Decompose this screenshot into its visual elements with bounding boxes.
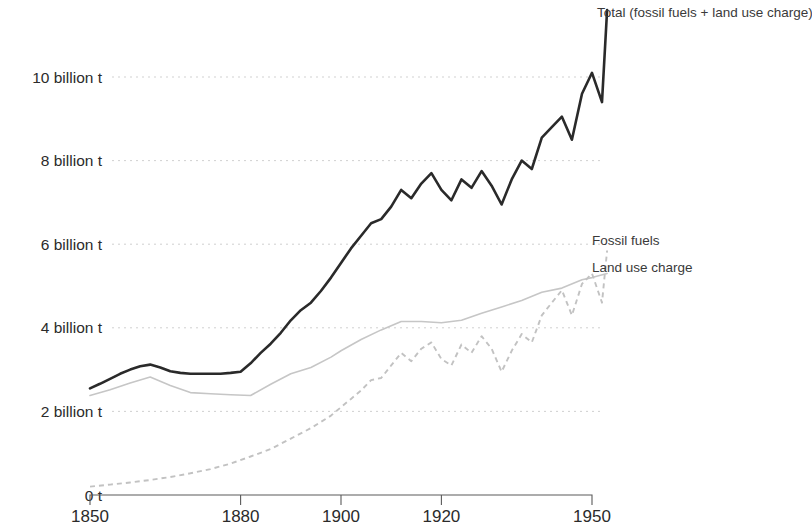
series-line-land-use-charge: [90, 274, 607, 396]
data-series-group: [90, 10, 607, 487]
y-axis-tick-label: 6 billion t: [41, 236, 103, 253]
series-label-land-use-charge: Land use charge: [592, 260, 693, 275]
x-axis-tick-label: 1950: [573, 507, 611, 526]
line-chart: 10 billion t8 billion t6 billion t4 bill…: [0, 0, 812, 526]
series-inline-labels: Total (fossil fuels + land use charge)Fo…: [592, 5, 812, 275]
y-axis-tick-label: 2 billion t: [41, 403, 103, 420]
y-axis-tick-label: 8 billion t: [41, 152, 103, 169]
y-axis-tick-labels: 10 billion t8 billion t6 billion t4 bill…: [32, 69, 102, 504]
series-line-fossil-fuels: [90, 251, 607, 487]
x-axis-tick-label: 1850: [71, 507, 109, 526]
x-axis-tick-label: 1920: [422, 507, 460, 526]
series-label-fossil-fuels: Fossil fuels: [592, 233, 660, 248]
y-axis-tick-label: 10 billion t: [32, 69, 102, 86]
chart-container: 10 billion t8 billion t6 billion t4 bill…: [0, 0, 812, 526]
x-axis-tick-label: 1880: [222, 507, 260, 526]
series-line-total: [90, 10, 607, 388]
x-axis-tick-label: 1900: [322, 507, 360, 526]
x-axis: [90, 495, 592, 505]
y-axis-tick-label: 4 billion t: [41, 319, 103, 336]
x-axis-tick-labels: 18501880190019201950: [71, 507, 611, 526]
series-label-total: Total (fossil fuels + land use charge): [597, 5, 812, 20]
